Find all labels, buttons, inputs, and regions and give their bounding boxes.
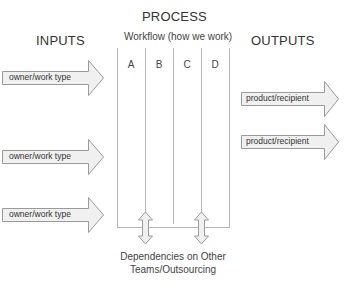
column-label-b: B xyxy=(145,59,173,70)
dependencies-line-1: Dependencies on Other xyxy=(83,250,263,263)
process-title: PROCESS xyxy=(142,9,207,24)
input-label: owner/work type xyxy=(9,72,71,82)
column-label-a: A xyxy=(117,59,145,70)
dependencies-label: Dependencies on Other Teams/Outsourcing xyxy=(83,250,263,276)
dependencies-line-2: Teams/Outsourcing xyxy=(83,263,263,276)
outputs-title: OUTPUTS xyxy=(251,33,315,48)
workflow-grid xyxy=(117,48,230,228)
output-label: product/recipient xyxy=(246,136,309,146)
inputs-title: INPUTS xyxy=(36,33,85,48)
column-label-c: C xyxy=(173,59,201,70)
process-subtitle: Workflow (how we work) xyxy=(124,31,232,42)
input-label: owner/work type xyxy=(9,209,71,219)
output-label: product/recipient xyxy=(246,93,309,103)
input-arrows xyxy=(3,61,104,233)
input-label: owner/work type xyxy=(9,151,71,161)
column-label-d: D xyxy=(201,59,229,70)
